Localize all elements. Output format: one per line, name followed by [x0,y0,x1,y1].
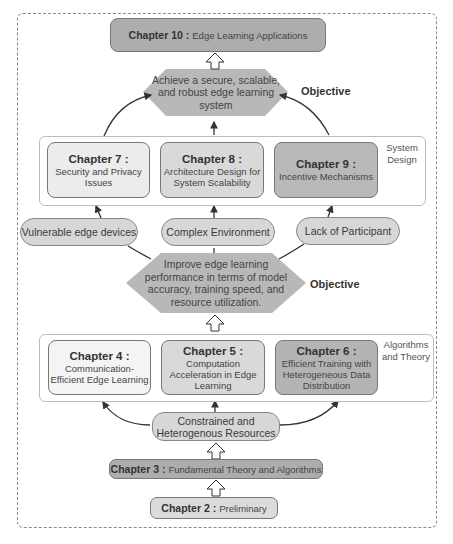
challenge-constrained-resources: Constrained and Heterogenous Resources [152,412,280,441]
challenge-complex-environment: Complex Environment [161,218,275,246]
challenge-vulnerable-devices: Vulnerable edge devices [20,218,138,246]
chapter-6-number: Chapter 6 : [296,345,356,357]
curved-arrow [103,402,150,425]
hollow-arrow-icon [206,315,224,331]
chapter-3-number: Chapter 3 : [111,463,166,475]
hollow-arrow-icon [207,480,225,496]
chapter-7-title: Security and Privacy Issues [53,166,145,188]
chapter-10-title: Edge Learning Applications [192,30,307,41]
chapter-8-number: Chapter 8 : [182,153,242,165]
chapter-4-number: Chapter 4 : [69,350,129,362]
straight-arrow [328,206,332,217]
chapter-3-title: Fundamental Theory and Algorithms [168,464,321,475]
hollow-arrow-icon [206,53,224,69]
chapter-9-box: Chapter 9 : Incentive Mechanisms [274,142,378,198]
chapter-7-box: Chapter 7 : Security and Privacy Issues [47,142,150,198]
chapter-6-box: Chapter 6 : Efficient Training with Hete… [275,340,378,395]
chapter-5-box: Chapter 5 : Computation Acceleration in … [161,340,265,395]
chapter-2-title: Preliminary [219,503,267,514]
chapter-10-number: Chapter 10 : [129,29,190,41]
chapter-4-box: Chapter 4 : Communication-Efficient Edge… [48,340,151,395]
chapter-8-title: Architecture Design for System Scalabili… [163,166,261,188]
chapter-5-number: Chapter 5 : [183,345,243,357]
objective-mid-text: Improve edge learning performance in ter… [138,253,294,313]
chapter-3-box: Chapter 3 : Fundamental Theory and Algor… [109,459,323,479]
curved-arrow [280,401,338,425]
algorithms-theory-label: Algorithms and Theory [380,339,432,362]
chapter-7-number: Chapter 7 : [68,153,128,165]
system-design-label: System Design [382,142,422,165]
hollow-arrow-icon [207,443,225,459]
chapter-2-box: Chapter 2 : Preliminary [150,497,278,519]
challenge-lack-of-participant: Lack of Participant [296,217,400,245]
chapter-6-title: Efficient Training with Heterogeneous Da… [278,358,376,391]
chapter-9-number: Chapter 9 : [296,158,356,170]
chapter-10-box: Chapter 10 : Edge Learning Applications [110,18,326,52]
chapter-9-title: Incentive Mechanisms [279,171,373,182]
objective-top-text: Achieve a secure, scalable, and robust e… [150,69,282,116]
curved-arrow [104,95,151,136]
chapter-2-number: Chapter 2 : [161,502,216,514]
chapter-8-box: Chapter 8 : Architecture Design for Syst… [160,142,264,198]
objective-mid-label: Objective [310,278,360,290]
straight-arrow [96,206,101,218]
chapter-4-title: Communication-Efficient Edge Learning [50,363,150,385]
curved-arrow [280,95,329,135]
chapter-5-title: Computation Acceleration in Edge Learnin… [167,358,259,391]
objective-top-label: Objective [301,85,351,97]
